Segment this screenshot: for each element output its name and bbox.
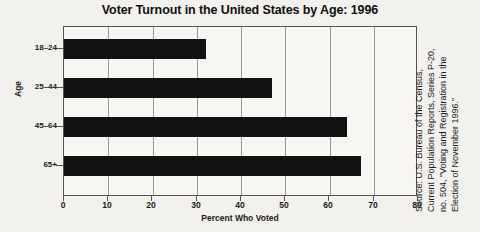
ytick-mark-65-plus	[56, 165, 63, 166]
x-axis-label: Percent Who Voted	[63, 213, 417, 223]
xtick-label-20: 20	[146, 200, 155, 210]
plot-area	[63, 26, 417, 196]
bar-25-44	[64, 78, 272, 98]
chart-title: Voter Turnout in the United States by Ag…	[63, 3, 417, 17]
source-note: Source: U.S. Bureau of the Census, Curre…	[424, 12, 480, 212]
ytick-label-65-plus: 65+	[43, 160, 57, 169]
xtick-label-10: 10	[102, 200, 111, 210]
xtick-label-40: 40	[235, 200, 244, 210]
bar-65-plus	[64, 156, 361, 176]
xtick-label-70: 70	[368, 200, 377, 210]
ytick-label-25-44: 25–44	[35, 82, 57, 91]
xtick-label-60: 60	[323, 200, 332, 210]
ytick-mark-25-44	[56, 87, 63, 88]
ytick-label-45-64: 45–64	[35, 121, 57, 130]
y-axis-label: Age	[13, 81, 23, 97]
bar-row	[64, 78, 416, 98]
source-line: no. 504, “Voting and Registration in the	[439, 56, 448, 212]
xtick-label-50: 50	[279, 200, 288, 210]
bar-row	[64, 117, 416, 137]
ytick-mark-45-64	[56, 126, 63, 127]
xtick-label-0: 0	[61, 200, 66, 210]
bar-45-64	[64, 117, 347, 137]
bar-18-24	[64, 39, 206, 59]
source-line: Election of November 1996.”	[451, 98, 460, 212]
xtick-label-30: 30	[191, 200, 200, 210]
bar-row	[64, 156, 416, 176]
source-line: Current Population Reports, Series P-20,	[427, 48, 436, 212]
ytick-label-18-24: 18–24	[35, 43, 57, 52]
ytick-mark-18-24	[56, 48, 63, 49]
chart-figure: Voter Turnout in the United States by Ag…	[0, 0, 480, 232]
source-line: Source: U.S. Bureau of the Census,	[415, 69, 424, 212]
bar-row	[64, 39, 416, 59]
